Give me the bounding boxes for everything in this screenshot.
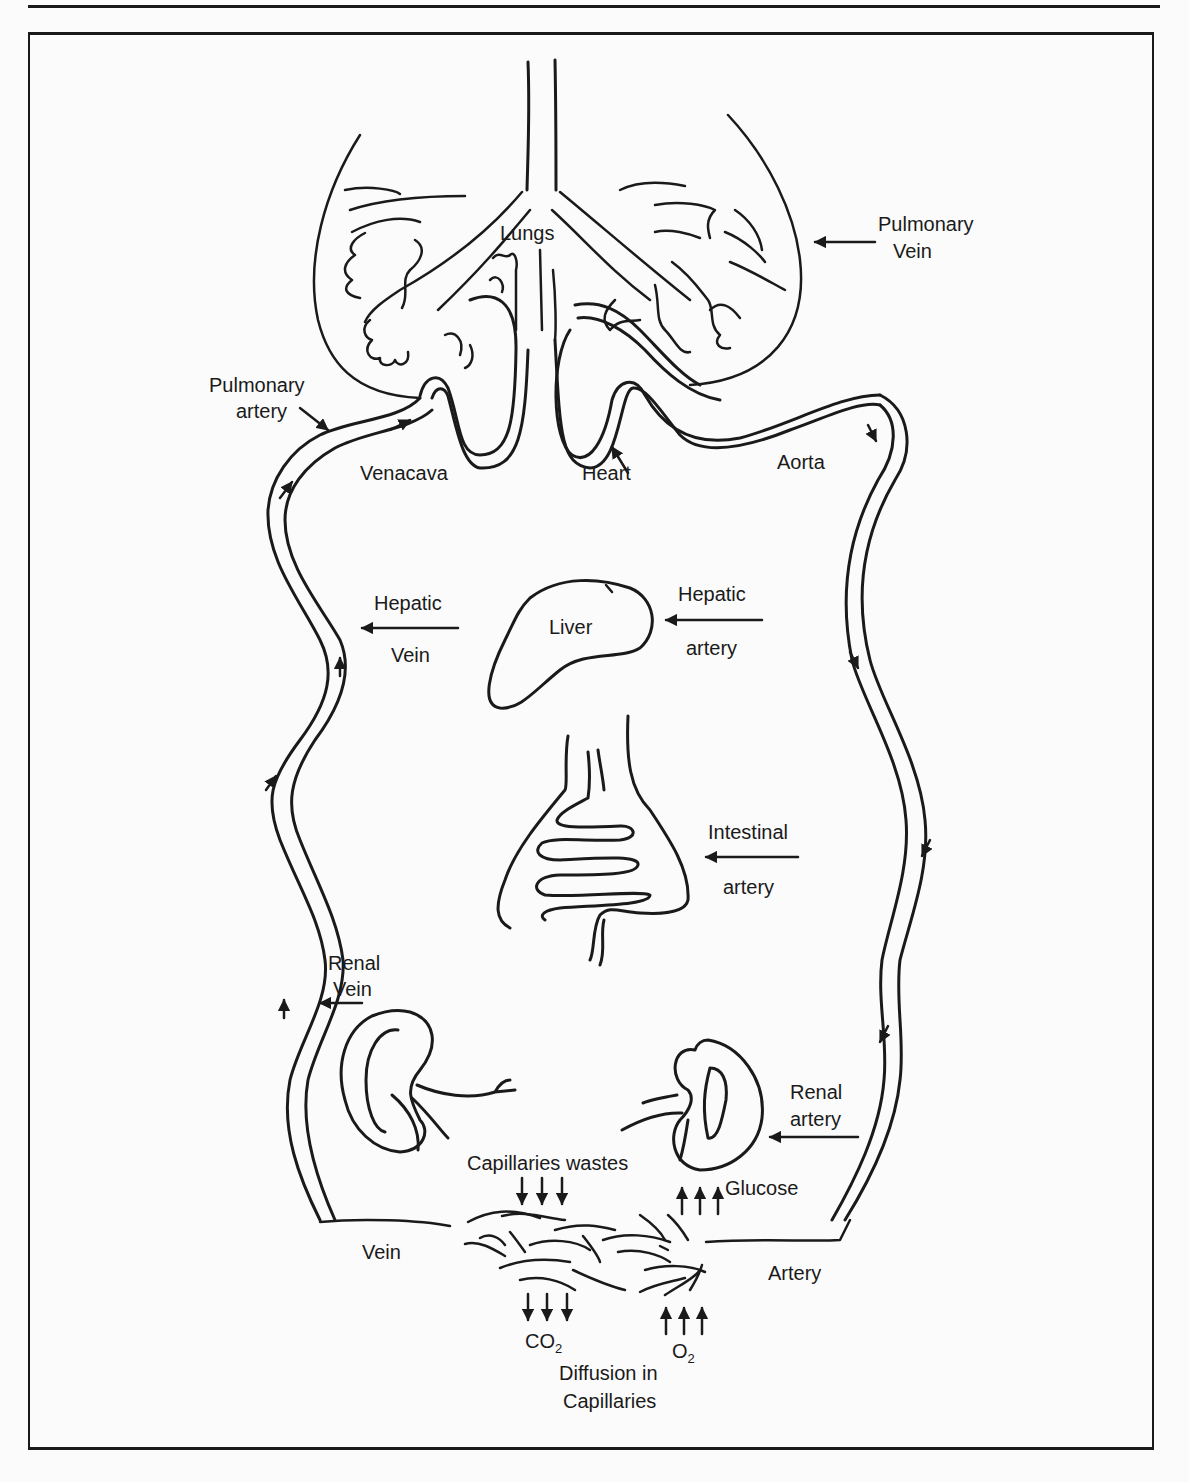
label-artery: Artery [768, 1262, 821, 1284]
label-pulmonary-artery-2: artery [236, 400, 287, 422]
o2-up-arrows-icon [666, 1308, 702, 1334]
vein-return-path [268, 398, 432, 1220]
liver [489, 580, 653, 708]
liver-mark [606, 585, 612, 592]
co2-down-arrows-icon [528, 1294, 567, 1320]
label-glucose: Glucose [725, 1177, 798, 1199]
label-hepatic-artery-2: artery [686, 637, 737, 659]
label-renal-artery-2: artery [790, 1108, 841, 1130]
label-pulmonary-artery-1: Pulmonary [209, 374, 305, 396]
glucose-up-arrows-icon [682, 1188, 718, 1214]
label-hepatic-vein-2: Vein [391, 644, 430, 666]
flow-arrows [266, 420, 930, 1042]
right-kidney [622, 1040, 762, 1170]
label-intestinal-artery-1: Intestinal [708, 821, 788, 843]
label-pulmonary-vein-1: Pulmonary [878, 213, 974, 235]
label-renal-vein-1: Renal [328, 952, 380, 974]
label-aorta: Aorta [777, 451, 825, 473]
co2-base: CO [525, 1330, 555, 1352]
trachea [527, 60, 556, 190]
label-co2: CO2 [525, 1330, 562, 1360]
label-renal-vein-2: Vein [333, 978, 372, 1000]
label-capillaries-wastes: Capillaries wastes [467, 1152, 628, 1174]
wastes-down-arrows-icon [522, 1178, 562, 1204]
label-vein: Vein [362, 1241, 401, 1263]
intestine [498, 716, 688, 965]
label-liver: Liver [549, 616, 592, 638]
label-renal-artery-1: Renal [790, 1081, 842, 1103]
label-heart: Heart [582, 462, 631, 484]
label-lungs: Lungs [500, 222, 555, 244]
capillary-network [465, 1212, 705, 1295]
label-hepatic-vein-1: Hepatic [374, 592, 442, 614]
label-arrows [300, 242, 875, 1137]
o2-base: O [672, 1340, 688, 1362]
pulmonary-artery-arrow-icon [300, 408, 328, 430]
label-venacava: Venacava [360, 462, 448, 484]
page: Lungs Pulmonary Vein Pulmonary artery Ve… [0, 0, 1189, 1482]
left-kidney [341, 1010, 515, 1152]
label-pulmonary-vein-2: Vein [893, 240, 932, 262]
label-diffusion-2: Capillaries [563, 1390, 656, 1412]
lungs [314, 115, 801, 398]
co2-subscript: 2 [555, 1341, 562, 1356]
label-diffusion-1: Diffusion in [559, 1362, 658, 1384]
aorta-path [832, 395, 926, 1220]
label-intestinal-artery-2: artery [723, 876, 774, 898]
label-o2: O2 [672, 1340, 695, 1370]
circulation-diagram [0, 0, 1189, 1482]
o2-subscript: 2 [688, 1351, 695, 1366]
label-hepatic-artery-1: Hepatic [678, 583, 746, 605]
flow-arrow-icon [868, 425, 876, 441]
heart [420, 297, 880, 469]
